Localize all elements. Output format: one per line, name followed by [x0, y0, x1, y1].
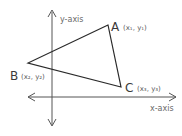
coordinate-diagram: y-axis x-axis A (x₁, y₁) B (x₂, y₂) C (x…: [0, 0, 182, 136]
vertex-c-label: C: [125, 81, 133, 95]
vertex-b-label: B: [10, 69, 18, 83]
x-axis: [28, 93, 176, 101]
vertex-b-coords: (x₂, y₂): [21, 73, 45, 81]
y-axis-label: y-axis: [60, 15, 84, 24]
vertex-c-coords: (x₃, y₃): [137, 85, 161, 93]
x-axis-label: x-axis: [150, 104, 174, 113]
vertex-a-label: A: [111, 20, 120, 34]
vertex-a-coords: (x₁, y₁): [123, 24, 147, 32]
